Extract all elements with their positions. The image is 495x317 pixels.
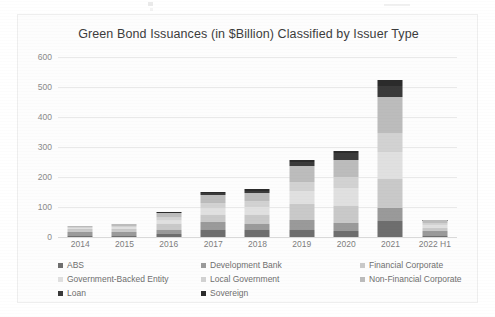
legend-swatch-icon — [58, 277, 63, 282]
legend-swatch-icon — [58, 291, 63, 296]
bar-segment[interactable] — [334, 206, 359, 223]
x-tick-label: 2021 — [381, 239, 400, 249]
bar-segment[interactable] — [201, 195, 226, 203]
x-tick-label: 2016 — [159, 239, 178, 249]
stacked-bar[interactable] — [422, 220, 447, 237]
stacked-bar[interactable] — [112, 224, 137, 237]
y-tick-label: 0 — [47, 232, 52, 242]
bar-segment[interactable] — [201, 208, 226, 215]
plot-area — [58, 57, 457, 237]
bar-slot — [368, 57, 412, 237]
bar-slot — [147, 57, 191, 237]
bar-segment[interactable] — [156, 234, 181, 237]
bar-segment[interactable] — [334, 153, 359, 160]
bar-segment[interactable] — [245, 207, 270, 215]
stacked-bar[interactable] — [245, 189, 270, 237]
chart-card: Green Bond Issuances (in $Billion) Class… — [17, 14, 478, 303]
chart-legend: ABSDevelopment BankFinancial CorporateGo… — [58, 261, 458, 303]
x-tick-label: 2014 — [71, 239, 90, 249]
bar-segment[interactable] — [334, 223, 359, 231]
x-tick-label: 2017 — [204, 239, 223, 249]
bar-segment[interactable] — [201, 222, 226, 230]
bar-slot — [235, 57, 279, 237]
bar-segment[interactable] — [245, 193, 270, 202]
legend-swatch-icon — [201, 277, 206, 282]
bar-segment[interactable] — [334, 160, 359, 177]
bar-segment[interactable] — [245, 215, 270, 224]
legend-item[interactable]: Non-Financial Corporate — [360, 275, 462, 284]
bar-segment[interactable] — [289, 191, 314, 204]
legend-swatch-icon — [360, 277, 365, 282]
legend-item-label: Non-Financial Corporate — [369, 275, 462, 284]
legend-item-label: Local Government — [210, 275, 279, 284]
stacked-bar[interactable] — [289, 160, 314, 237]
bar-segment[interactable] — [378, 133, 403, 152]
legend-item-label: Development Bank — [210, 261, 282, 270]
bar-segment[interactable] — [378, 208, 403, 222]
bar-segment[interactable] — [68, 236, 93, 237]
legend-item[interactable]: Government-Backed Entity — [58, 275, 169, 284]
legend-item[interactable]: Development Bank — [201, 261, 282, 270]
chart-title: Green Bond Issuances (in $Billion) Class… — [18, 27, 479, 41]
bar-segment[interactable] — [378, 80, 403, 87]
stacked-bar[interactable] — [334, 151, 359, 237]
gridline — [58, 237, 457, 238]
bar-segment[interactable] — [245, 224, 270, 231]
stacked-bar[interactable] — [378, 80, 403, 237]
legend-item[interactable]: Sovereign — [201, 289, 248, 298]
bar-segment[interactable] — [245, 230, 270, 237]
bar-segment[interactable] — [289, 220, 314, 231]
bar-segment[interactable] — [334, 231, 359, 237]
bar-segment[interactable] — [289, 166, 314, 182]
bar-slot — [102, 57, 146, 237]
bar-segment[interactable] — [201, 215, 226, 223]
bar-segment[interactable] — [289, 230, 314, 237]
y-tick-label: 600 — [38, 52, 52, 62]
x-tick-label: 2022 H1 — [419, 239, 451, 249]
x-tick-label: 2019 — [292, 239, 311, 249]
bar-segment[interactable] — [378, 179, 403, 208]
bar-series-group — [58, 57, 457, 237]
bar-slot — [58, 57, 102, 237]
stacked-bar[interactable] — [68, 226, 93, 237]
legend-item[interactable]: Loan — [58, 289, 86, 298]
bar-segment[interactable] — [422, 236, 447, 238]
y-tick-label: 200 — [38, 172, 52, 182]
x-tick-label: 2018 — [248, 239, 267, 249]
bar-slot — [413, 57, 457, 237]
x-tick-label: 2020 — [337, 239, 356, 249]
legend-swatch-icon — [201, 263, 206, 268]
legend-item-label: Government-Backed Entity — [67, 275, 169, 284]
legend-item[interactable]: ABS — [58, 261, 84, 270]
bar-segment[interactable] — [378, 97, 403, 133]
y-tick-label: 500 — [38, 82, 52, 92]
x-axis-tick-labels: 201420152016201720182019202020212022 H1 — [58, 239, 457, 253]
bar-slot — [324, 57, 368, 237]
bar-segment[interactable] — [201, 230, 226, 237]
legend-item[interactable]: Local Government — [201, 275, 279, 284]
y-tick-label: 300 — [38, 142, 52, 152]
bar-segment[interactable] — [112, 236, 137, 237]
legend-item-label: Financial Corporate — [369, 261, 443, 270]
x-tick-label: 2015 — [115, 239, 134, 249]
bar-segment[interactable] — [334, 177, 359, 188]
stacked-bar[interactable] — [201, 192, 226, 237]
legend-item-label: Sovereign — [210, 289, 248, 298]
scan-artifact-strip — [0, 0, 495, 14]
stacked-bar[interactable] — [156, 212, 181, 237]
y-axis-tick-labels: 0100200300400500600 — [18, 57, 58, 237]
y-tick-label: 400 — [38, 112, 52, 122]
legend-swatch-icon — [360, 263, 365, 268]
bar-segment[interactable] — [378, 152, 403, 180]
bar-segment[interactable] — [289, 182, 314, 191]
bar-segment[interactable] — [378, 86, 403, 97]
bar-slot — [191, 57, 235, 237]
legend-swatch-icon — [201, 291, 206, 296]
legend-swatch-icon — [58, 263, 63, 268]
bar-segment[interactable] — [289, 204, 314, 220]
legend-item[interactable]: Financial Corporate — [360, 261, 443, 270]
bar-segment[interactable] — [378, 221, 403, 237]
bar-slot — [280, 57, 324, 237]
legend-item-label: Loan — [67, 289, 86, 298]
bar-segment[interactable] — [334, 188, 359, 206]
